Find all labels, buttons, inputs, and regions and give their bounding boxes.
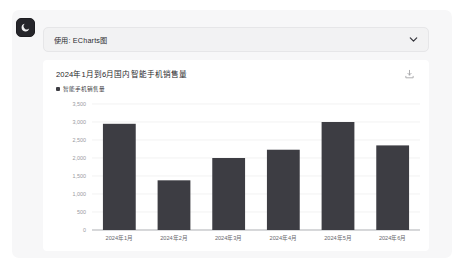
app-root: 使用: ECharts图 2024年1月到6月国内智能手机销售量 智能手机销售量… (0, 0, 464, 277)
moon-icon (20, 22, 31, 33)
x-axis-tick-label: 2024年3月 (215, 234, 243, 242)
y-axis-tick-label: 500 (77, 209, 86, 215)
x-axis-tick-label: 2024年5月 (324, 234, 352, 242)
dark-mode-toggle[interactable] (16, 18, 35, 37)
bar[interactable] (267, 150, 300, 230)
y-axis-tick-label: 2,000 (73, 155, 87, 161)
x-axis-tick-label: 2024年4月 (270, 234, 298, 242)
chart-type-select-label: 使用: ECharts图 (54, 35, 408, 45)
x-axis-tick-label: 2024年1月 (106, 234, 134, 242)
chart-type-select[interactable]: 使用: ECharts图 (43, 27, 429, 52)
bar[interactable] (322, 122, 355, 230)
chart-card: 2024年1月到6月国内智能手机销售量 智能手机销售量 05001,0001,5… (43, 60, 429, 251)
x-axis-tick-label: 2024年6月 (379, 234, 407, 242)
x-axis-tick-label: 2024年2月 (160, 234, 188, 242)
y-axis-tick-label: 1,000 (73, 191, 87, 197)
y-axis-tick-label: 1,500 (73, 173, 87, 179)
chart-plot-area: 05001,0001,5002,0002,5003,0003,5002024年1… (43, 60, 429, 251)
y-axis-tick-label: 0 (83, 227, 86, 233)
y-axis-tick-label: 2,500 (73, 137, 87, 143)
bar[interactable] (212, 158, 245, 230)
bar[interactable] (103, 124, 136, 230)
y-axis-tick-label: 3,500 (73, 101, 87, 107)
bar[interactable] (376, 145, 409, 230)
bar[interactable] (158, 180, 191, 230)
y-axis-tick-label: 3,000 (73, 119, 87, 125)
chevron-down-icon[interactable] (408, 31, 419, 49)
